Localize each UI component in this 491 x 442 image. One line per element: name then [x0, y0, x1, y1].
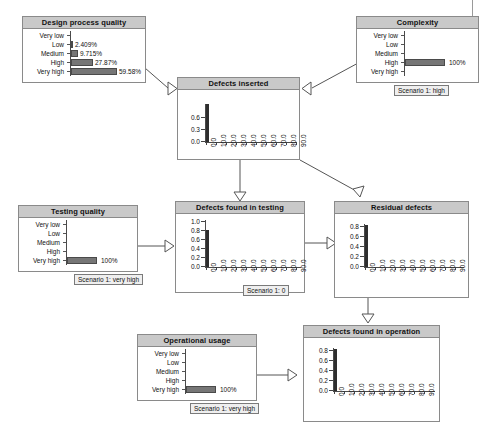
state-row: High 27.87%	[23, 58, 143, 67]
edge-cx-to-di	[312, 62, 360, 88]
state-row: Low	[138, 358, 254, 367]
x-tick-label: 80.0	[418, 383, 425, 396]
x-tick	[365, 267, 366, 270]
y-tick-label: 0.0	[304, 387, 328, 394]
y-tick-label: 0.8	[335, 223, 359, 230]
x-tick-label: 80.0	[449, 259, 456, 272]
state-label: Medium	[357, 49, 401, 58]
state-label: Very low	[19, 220, 63, 229]
arrowhead-di-to-rd	[353, 186, 364, 197]
state-row: Very high 59.58%	[23, 67, 143, 76]
node-design-process-quality[interactable]: Design process quality Very low Low 2.40…	[22, 16, 146, 83]
bar-track	[66, 220, 135, 229]
x-tick-label: 0.0	[369, 263, 376, 272]
x-tick-label: 0.0	[210, 138, 217, 147]
scenario-chip-defects-found-in-testing[interactable]: Scenario 1: 0	[243, 285, 289, 296]
x-tick-label: 30.0	[399, 259, 406, 272]
node-title-residual-defects: Residual defects	[335, 202, 468, 214]
state-row: High	[138, 376, 254, 385]
bar-track	[185, 367, 254, 376]
bar-track: 100%	[66, 256, 135, 265]
bar-track: 59.58%	[70, 67, 143, 76]
scenario-chip-operational-usage[interactable]: Scenario 1: very high	[190, 403, 259, 414]
scenario-chip-complexity[interactable]: Scenario 1: high	[394, 85, 449, 96]
arrowhead-rd-to-dfo	[362, 314, 374, 323]
density-spike	[334, 349, 337, 391]
state-row: High	[19, 247, 135, 256]
x-tick	[334, 391, 335, 394]
bar-track: 9.715%	[70, 49, 143, 58]
state-row: High 100%	[357, 58, 476, 67]
x-tick-label: 60.0	[270, 134, 277, 147]
state-row: Very low	[23, 31, 143, 40]
x-tick-label: 60.0	[398, 383, 405, 396]
bar-track	[404, 40, 476, 49]
y-tick-label: 0.0	[335, 263, 359, 270]
y-tick-label: 0.4	[335, 243, 359, 250]
state-row: Very low	[357, 31, 476, 40]
bar-track	[185, 376, 254, 385]
x-tick-label: 10.0	[379, 259, 386, 272]
node-body-defects-found-in-testing: 1.0 0.8 0.6 0.4 0.2 0.0	[176, 214, 304, 294]
bar-track	[185, 349, 254, 358]
x-tick-label: 90.0	[300, 134, 307, 147]
y-tick-label: 0.6	[178, 114, 200, 121]
state-label: Very low	[23, 31, 67, 40]
x-tick-label: 50.0	[388, 383, 395, 396]
edge-dpq-to-di	[145, 68, 168, 88]
x-tick-label: 40.0	[250, 259, 257, 272]
node-complexity[interactable]: Complexity Very low Low Medium High	[356, 16, 479, 83]
state-label: Very low	[138, 349, 182, 358]
x-tick-label: 90.0	[300, 259, 307, 272]
x-tick-label: 50.0	[419, 259, 426, 272]
x-tick-label: 40.0	[250, 134, 257, 147]
x-tick-label: 30.0	[240, 259, 247, 272]
state-row: Very low	[138, 349, 254, 358]
node-defects-found-in-testing[interactable]: Defects found in testing 1.0 0.8 0.6 0.4…	[175, 201, 305, 293]
y-tick-label: 1.0	[176, 218, 200, 225]
scenario-chip-testing-quality[interactable]: Scenario 1: very high	[74, 274, 143, 285]
x-tick-label: 40.0	[409, 259, 416, 272]
state-label: High	[19, 247, 63, 256]
bar-track	[66, 247, 135, 256]
x-tick-label: 50.0	[260, 259, 267, 272]
bar	[71, 59, 93, 66]
node-residual-defects[interactable]: Residual defects 0.8 0.6 0.4 0.2 0.0	[334, 201, 469, 298]
x-tick-label: 20.0	[389, 259, 396, 272]
node-title-defects-found-in-operation: Defects found in operation	[304, 326, 439, 338]
state-label: Medium	[19, 238, 63, 247]
node-body-residual-defects: 0.8 0.6 0.4 0.2 0.0	[335, 214, 468, 299]
x-tick-label: 40.0	[378, 383, 385, 396]
x-tick-label: 70.0	[280, 259, 287, 272]
x-tick-label: 60.0	[429, 259, 436, 272]
node-testing-quality[interactable]: Testing quality Very low Low Medium High	[18, 205, 138, 272]
bar-value: 59.58%	[119, 67, 141, 76]
state-label: High	[138, 376, 182, 385]
node-defects-found-in-operation[interactable]: Defects found in operation 0.8 0.6 0.4 0…	[303, 325, 440, 422]
x-tick-label: 80.0	[290, 259, 297, 272]
x-tick-label: 10.0	[348, 383, 355, 396]
bar-value: 100%	[449, 58, 466, 67]
bar-value: 27.87%	[95, 58, 117, 67]
x-tick-label: 0.0	[210, 263, 217, 272]
y-tick-label: 0.3	[178, 126, 200, 133]
edge-di-to-rd	[300, 160, 358, 192]
x-tick-label: 20.0	[358, 383, 365, 396]
node-operational-usage[interactable]: Operational usage Very low Low Medium Hi…	[137, 334, 257, 401]
x-tick	[206, 142, 207, 145]
arrowhead-ou-to-dfo	[288, 369, 297, 381]
arrowhead-tq-to-dft	[165, 240, 174, 252]
bar-track	[404, 31, 476, 40]
bar-track	[66, 229, 135, 238]
x-tick-label: 30.0	[240, 134, 247, 147]
state-label: High	[23, 58, 67, 67]
y-tick-label: 0.2	[335, 253, 359, 260]
state-label: Medium	[138, 367, 182, 376]
state-label: Very high	[19, 256, 63, 265]
bar-track: 2.409%	[70, 40, 143, 49]
node-defects-inserted[interactable]: Defects inserted 0.6 0.3 0.0	[177, 77, 300, 160]
state-row: Very high 100%	[138, 385, 254, 394]
state-label: Very high	[357, 67, 401, 76]
state-row: Very low	[19, 220, 135, 229]
node-title-operational-usage: Operational usage	[138, 335, 256, 347]
